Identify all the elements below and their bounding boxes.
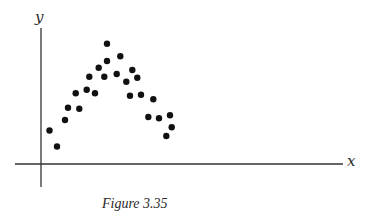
data-point bbox=[169, 124, 175, 130]
data-point bbox=[101, 74, 107, 80]
data-point bbox=[134, 75, 140, 81]
data-point bbox=[150, 96, 156, 102]
data-points bbox=[46, 41, 175, 150]
data-point bbox=[86, 74, 92, 80]
data-point bbox=[167, 112, 173, 118]
data-point bbox=[84, 87, 90, 93]
data-point bbox=[104, 41, 110, 47]
data-point bbox=[138, 92, 144, 98]
data-point bbox=[96, 65, 102, 71]
data-point bbox=[123, 79, 129, 85]
data-point bbox=[104, 58, 110, 64]
scatter-plot bbox=[0, 0, 380, 218]
data-point bbox=[129, 67, 135, 73]
data-point bbox=[92, 90, 98, 96]
y-axis-label: y bbox=[35, 8, 43, 26]
data-point bbox=[127, 93, 133, 99]
data-point bbox=[73, 90, 79, 96]
data-point bbox=[46, 127, 52, 133]
figure-caption: Figure 3.35 bbox=[102, 196, 168, 212]
data-point bbox=[114, 71, 120, 77]
data-point bbox=[54, 143, 60, 149]
data-point bbox=[76, 106, 82, 112]
data-point bbox=[145, 114, 151, 120]
data-point bbox=[156, 115, 162, 121]
data-point bbox=[163, 133, 169, 139]
data-point bbox=[117, 53, 123, 59]
x-axis-label: x bbox=[347, 152, 355, 170]
data-point bbox=[62, 117, 68, 123]
data-point bbox=[65, 105, 71, 111]
